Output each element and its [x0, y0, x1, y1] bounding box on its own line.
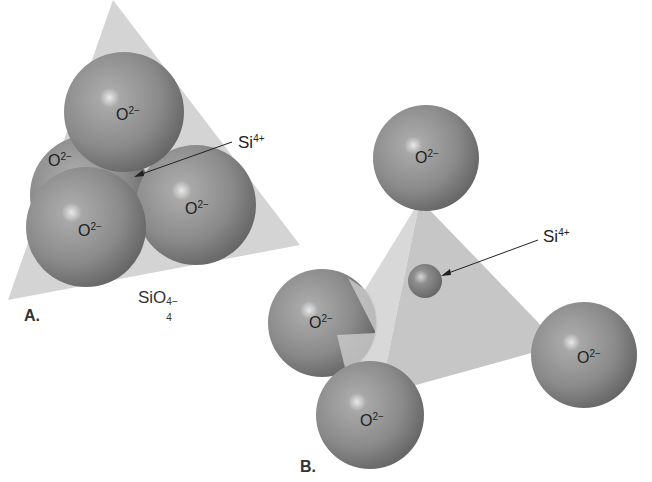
oxygen-label-b-right: O2− — [577, 348, 601, 367]
panel-a-label: A. — [24, 307, 40, 325]
oxygen-label-b-left: O2− — [309, 313, 333, 332]
oxygen-label-b-bottom: O2− — [360, 411, 384, 430]
panel-b — [268, 105, 637, 469]
silicon-label-b: Si4+ — [543, 228, 570, 245]
oxygen-label-a-back-left: O2− — [48, 151, 72, 170]
panel-b-label: B. — [300, 458, 316, 476]
oxygen-label-a-right: O2− — [185, 199, 209, 218]
oxygen-label-b-top: O2− — [415, 148, 439, 167]
formula-label: SiO4−4 — [138, 288, 180, 308]
oxygen-label-a-top: O2− — [116, 105, 140, 124]
silicon-label-a: Si4+ — [238, 134, 265, 151]
silicon-sphere-b — [408, 264, 442, 298]
oxygen-label-a-front-left: O2− — [78, 221, 102, 240]
